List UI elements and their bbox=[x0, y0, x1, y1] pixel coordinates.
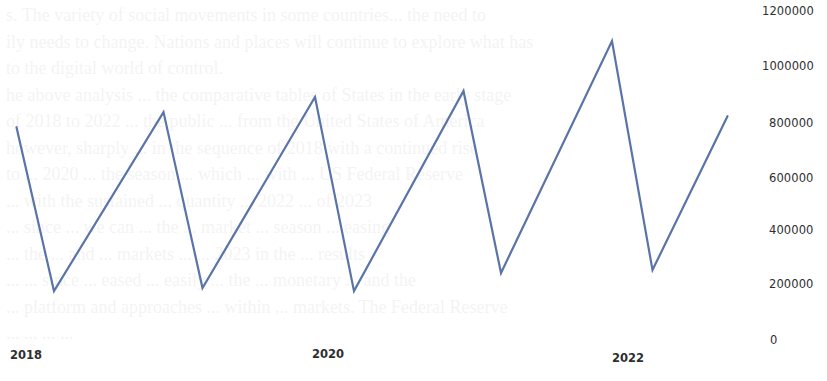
y-tick-label: 800000 bbox=[769, 116, 814, 130]
y-tick-label: 600000 bbox=[769, 171, 814, 185]
x-tick-label: 2018 bbox=[10, 348, 42, 362]
plot-area bbox=[0, 0, 827, 381]
x-tick-label: 2020 bbox=[312, 347, 344, 361]
y-tick-label: 1200000 bbox=[762, 4, 814, 18]
data-line bbox=[17, 41, 728, 291]
y-tick-label: 0 bbox=[770, 333, 777, 347]
y-tick-label: 1000000 bbox=[762, 59, 814, 73]
y-tick-label: 400000 bbox=[769, 223, 814, 237]
y-tick-label: 200000 bbox=[769, 277, 814, 291]
x-tick-label: 2022 bbox=[612, 351, 644, 365]
line-chart: 1200000 1000000 800000 600000 400000 200… bbox=[0, 0, 827, 381]
